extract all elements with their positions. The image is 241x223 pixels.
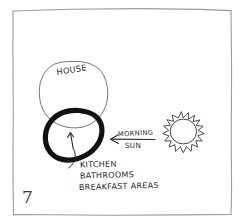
- sketch-page: HOUSE KITCHEN BATHROOMS BREAKFAST AREAS …: [0, 0, 241, 223]
- page-number: 7: [22, 187, 33, 207]
- sun-label: SUN: [125, 141, 141, 150]
- room-label-bathrooms: BATHROOMS: [80, 170, 134, 180]
- room-label-kitchen: KITCHEN: [80, 160, 117, 170]
- hand-drawn-diagram: HOUSE KITCHEN BATHROOMS BREAKFAST AREAS …: [0, 0, 241, 223]
